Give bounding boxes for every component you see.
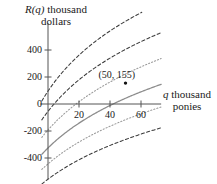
x-axis-label: q thousand ponies <box>158 88 216 113</box>
y-axis-label-units: thousand <box>45 3 87 15</box>
x-axis-label-units: thousand <box>169 88 211 100</box>
axes-group <box>40 23 161 180</box>
curve-group <box>42 12 161 184</box>
x-tick-label-40: 40 <box>98 109 122 120</box>
y-tick-label-0: 0 <box>12 98 42 109</box>
y-tick-label--200: -200 <box>12 125 42 136</box>
y-axis-label-variable: R(q) <box>25 3 45 15</box>
y-tick-label--400: -400 <box>12 152 42 163</box>
marker-group <box>124 81 127 84</box>
curve-6-lower-dashed <box>42 128 161 184</box>
data-point-label: (50, 155) <box>99 69 136 80</box>
y-axis-label-line2: dollars <box>41 15 71 27</box>
x-axis-label-line2: ponies <box>173 100 202 112</box>
data-point-marker <box>124 81 127 84</box>
x-tick-label-60: 60 <box>129 109 153 120</box>
x-tick-label-20: 20 <box>67 109 91 120</box>
y-tick-label-400: 400 <box>12 44 42 55</box>
y-axis-label: R(q) thousand dollars <box>6 3 106 28</box>
figure-container: R(q) thousand dollars q thousand ponies … <box>0 0 217 184</box>
y-tick-label-200: 200 <box>12 71 42 82</box>
